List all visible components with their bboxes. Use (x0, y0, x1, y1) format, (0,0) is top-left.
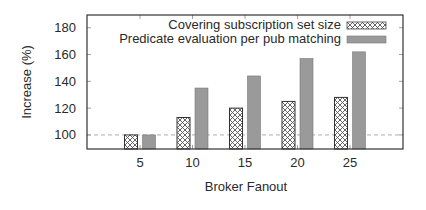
legend-swatch-covering (347, 22, 386, 29)
x-tick-label: 15 (238, 155, 252, 170)
bar-predicate-evaluation (300, 59, 313, 149)
x-axis-label: Broker Fanout (205, 179, 288, 194)
bar-predicate-evaluation (143, 135, 156, 149)
bar-covering-subscription (282, 101, 295, 149)
legend: Covering subscription set size Predicate… (119, 17, 386, 46)
bar-chart: Increase (%) 100120140160180 510152025 C… (0, 0, 426, 210)
x-tick-label: 20 (290, 155, 304, 170)
legend-label-covering: Covering subscription set size (168, 17, 341, 32)
bar-covering-subscription (230, 108, 243, 149)
y-tick-label: 180 (54, 20, 76, 35)
bar-predicate-evaluation (195, 88, 208, 149)
bar-covering-subscription (335, 97, 348, 149)
bar-covering-subscription (177, 118, 190, 149)
y-axis-label: Increase (%) (19, 45, 34, 119)
y-tick-label: 100 (54, 127, 76, 142)
x-tick-label: 5 (136, 155, 143, 170)
legend-label-predicate: Predicate evaluation per pub matching (119, 31, 341, 46)
bars-group (125, 52, 366, 149)
y-tick-label: 160 (54, 47, 76, 62)
bar-predicate-evaluation (353, 52, 366, 149)
bar-covering-subscription (125, 135, 138, 149)
x-tick-label: 25 (343, 155, 357, 170)
x-tick-label: 10 (185, 155, 199, 170)
y-axis-title-group: Increase (%) (19, 45, 34, 119)
y-tick-label: 140 (54, 74, 76, 89)
bar-predicate-evaluation (248, 76, 261, 149)
y-tick-label: 120 (54, 101, 76, 116)
legend-swatch-predicate (347, 36, 386, 43)
